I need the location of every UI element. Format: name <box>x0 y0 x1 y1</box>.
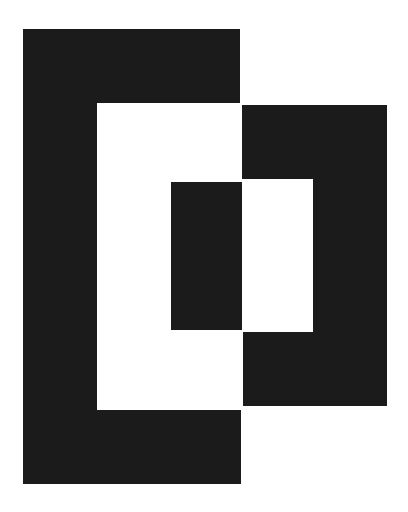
right-bracket-bottom-bar <box>243 332 387 406</box>
left-bracket-bottom-bar <box>25 410 241 484</box>
center-block-shape <box>171 182 242 330</box>
